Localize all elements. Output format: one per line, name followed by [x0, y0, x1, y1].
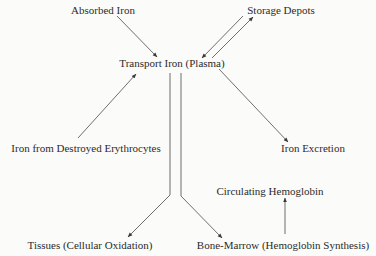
- edge-transport-to-bone-marrow: [181, 73, 222, 238]
- edge-transport-to-excretion: [219, 69, 288, 142]
- edge-storage-to-transport: [202, 16, 243, 58]
- node-bone-marrow: Bone-Marrow (Hemoglobin Synthesis): [197, 239, 369, 251]
- node-tissues: Tissues (Cellular Oxidation): [28, 239, 153, 251]
- node-storage-depots: Storage Depots: [247, 4, 315, 16]
- edge-absorbed-to-transport: [117, 16, 157, 57]
- edge-transport-to-storage: [212, 17, 253, 58]
- edge-erythrocytes-to-transport: [78, 74, 136, 138]
- node-iron-excretion: Iron Excretion: [281, 142, 345, 154]
- node-transport-iron: Transport Iron (Plasma): [119, 57, 224, 69]
- diagram-edges: [0, 0, 376, 256]
- node-circulating-hemoglobin: Circulating Hemoglobin: [216, 185, 323, 197]
- edge-transport-to-tissues: [128, 73, 170, 237]
- node-absorbed-iron: Absorbed Iron: [71, 4, 135, 16]
- node-destroyed-erythrocytes: Iron from Destroyed Erythrocytes: [11, 142, 160, 154]
